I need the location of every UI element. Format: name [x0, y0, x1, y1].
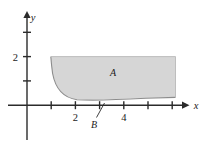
figure-canvas: y x 2 2 4 A B: [0, 0, 203, 151]
shaded-region-a: [51, 57, 176, 100]
y-axis-label: y: [30, 12, 36, 23]
math-figure: y x 2 2 4 A B: [0, 0, 203, 151]
x-axis-label: x: [193, 100, 199, 111]
region-label-a: A: [109, 67, 117, 78]
y-tick-label-2: 2: [13, 52, 18, 63]
curve-label-b: B: [91, 119, 97, 130]
y-axis-arrow-icon: [23, 11, 30, 18]
x-tick-label-4: 4: [121, 112, 127, 123]
x-tick-label-2: 2: [73, 112, 78, 123]
x-axis-arrow-icon: [182, 102, 190, 109]
